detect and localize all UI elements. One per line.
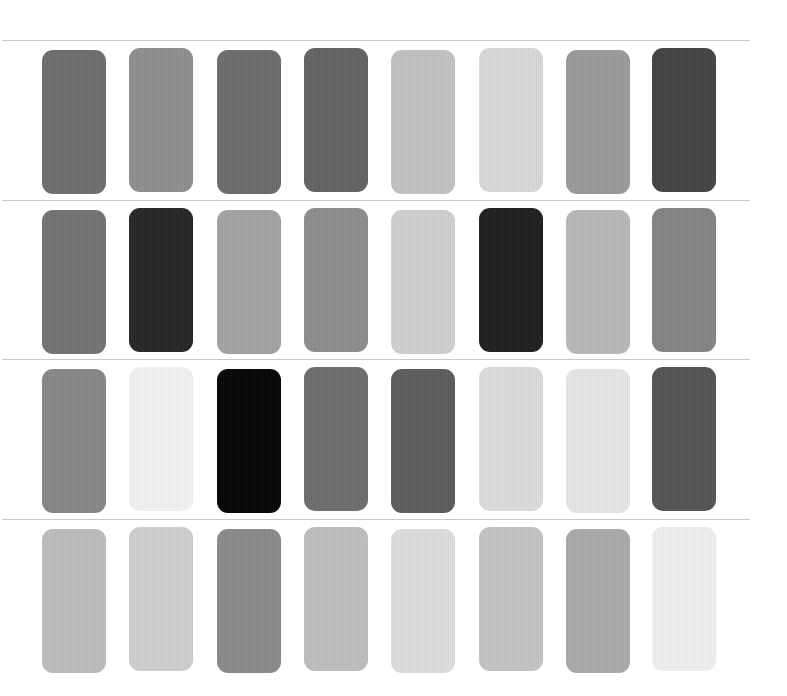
rule-2 [2,359,750,360]
gray-swatch [217,50,281,194]
gray-swatch [217,529,281,673]
gray-swatch [304,367,368,511]
gray-swatch [652,367,716,511]
gray-swatch [42,369,106,513]
gray-swatch [566,50,630,194]
gray-swatch [391,50,455,194]
gray-swatch [129,48,193,192]
gray-swatch [479,527,543,671]
row-3 [0,365,787,515]
rule-1 [2,200,750,201]
gray-swatch [304,208,368,352]
gray-swatch [566,210,630,354]
gray-swatch [652,208,716,352]
row-4 [0,525,787,675]
gray-swatch [652,48,716,192]
gray-swatch [42,529,106,673]
gray-swatch [129,367,193,511]
row-1 [0,46,787,196]
gray-swatch [217,369,281,513]
gray-swatch [304,48,368,192]
gray-swatch [391,529,455,673]
gray-swatch [479,48,543,192]
gray-swatch [652,527,716,671]
gray-swatch [479,208,543,352]
gray-swatch [129,527,193,671]
gray-swatch [391,369,455,513]
rule-3 [2,519,750,520]
rule-top [2,40,750,41]
gray-swatch [391,210,455,354]
gray-swatch [42,50,106,194]
row-2 [0,206,787,356]
gray-swatch [566,529,630,673]
gray-swatch [129,208,193,352]
gray-swatch [304,527,368,671]
gray-swatch [479,367,543,511]
gray-swatch [566,369,630,513]
gray-swatch [217,210,281,354]
gray-swatch [42,210,106,354]
